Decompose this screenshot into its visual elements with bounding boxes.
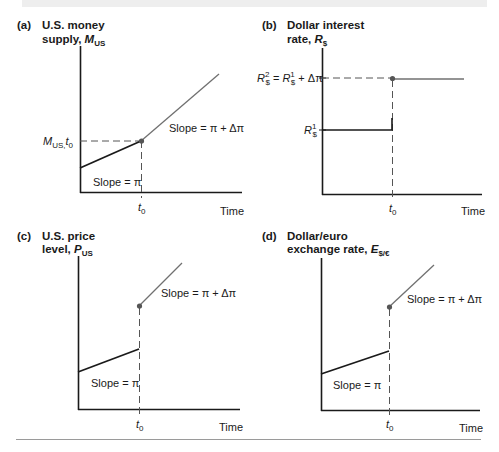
- panel-c-x-label: Time: [219, 421, 243, 433]
- panel-c-price-level: (c) U.S. price level, PUS Slope = π + Δπ…: [17, 230, 243, 433]
- panel-a-title-line1: U.S. money: [42, 19, 105, 31]
- panel-a-tag: (a): [17, 19, 31, 31]
- panel-d-jump-point: [387, 304, 392, 309]
- panel-d-exchange-rate: (d) Dollar/euro exchange rate, E$/€ Slop…: [262, 230, 483, 434]
- panel-c-tag: (c): [17, 230, 31, 242]
- panel-c-t0-tick: t0: [136, 418, 144, 433]
- panel-c-new-path: [139, 263, 182, 306]
- panel-d-slope-before: Slope = π: [333, 379, 382, 391]
- panel-a-slope-after: Slope = π + Δπ: [169, 122, 245, 134]
- panel-d-t0-tick: t0: [386, 418, 394, 433]
- panel-d-initial-path: [321, 351, 389, 374]
- panel-a-money-supply: (a) U.S. money supply, MUS MUS,t0 Slope …: [17, 19, 245, 217]
- bottom-rule: [16, 439, 481, 440]
- panel-b-upper-label: R2$ = R1$ + Δπ: [257, 70, 323, 87]
- panel-c-slope-before: Slope = π: [91, 377, 140, 389]
- panel-d-title-line1: Dollar/euro: [287, 230, 348, 242]
- panel-b-interest-rate: (b) Dollar interest rate, R$ R2$ = R1$ +…: [257, 19, 485, 217]
- panel-b-tag: (b): [262, 19, 277, 31]
- panel-b-lower-label: R1$: [304, 122, 317, 139]
- panel-c-jump-point: [137, 303, 142, 308]
- panel-c-title-line2: level, PUS: [42, 243, 93, 258]
- panel-c-initial-path: [78, 349, 139, 372]
- panel-a-slope-before: Slope = π: [93, 176, 142, 188]
- panel-a-y-marker: MUS,t0: [43, 135, 74, 150]
- panel-b-title-line2: rate, R$: [287, 33, 328, 48]
- panel-d-tag: (d): [262, 230, 277, 242]
- panel-a-t0-point: [139, 138, 144, 143]
- panel-b-t0-tick: t0: [389, 202, 397, 217]
- panel-b-x-label: Time: [461, 205, 485, 217]
- panel-b-t0-point: [390, 76, 395, 81]
- panel-c-slope-after: Slope = π + Δπ: [161, 287, 237, 299]
- panel-d-x-label: Time: [459, 422, 483, 434]
- panel-b-title-line1: Dollar interest: [287, 19, 364, 31]
- panel-a-x-label: Time: [220, 205, 244, 217]
- panel-a-title-line2: supply, MUS: [42, 33, 106, 48]
- panel-d-title-line2: exchange rate, E$/€: [287, 243, 390, 258]
- panel-c-title-line1: U.S. price: [42, 230, 95, 242]
- panel-a-t0-tick: t0: [138, 201, 146, 216]
- panel-a-initial-path: [80, 141, 141, 168]
- panel-d-slope-after: Slope = π + Δπ: [407, 293, 483, 305]
- panel-b-initial-rate: [322, 118, 392, 130]
- four-panel-diagram: (a) U.S. money supply, MUS MUS,t0 Slope …: [0, 0, 499, 452]
